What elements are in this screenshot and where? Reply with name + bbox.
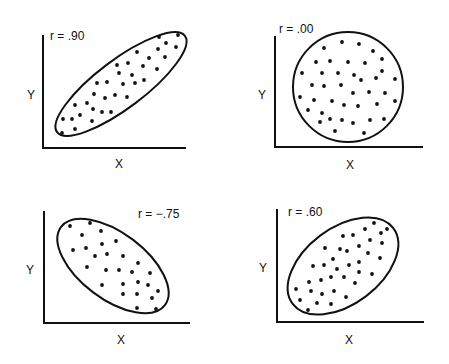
data-point: [340, 40, 344, 44]
data-point: [338, 247, 342, 251]
data-point: [383, 91, 387, 95]
y-axis-label: Y: [258, 88, 266, 102]
data-point: [371, 49, 375, 53]
correlation-label: r = .60: [288, 205, 323, 219]
data-point: [157, 35, 161, 39]
data-point: [363, 61, 367, 65]
data-point: [61, 117, 65, 121]
data-point: [368, 118, 372, 122]
data-point: [314, 60, 318, 64]
data-point: [322, 84, 326, 88]
data-point: [156, 289, 160, 293]
data-point: [332, 289, 336, 293]
data-point: [68, 224, 72, 228]
data-point: [307, 280, 311, 284]
data-point: [352, 73, 356, 77]
data-point: [339, 83, 343, 87]
data-point: [105, 80, 109, 84]
data-point: [135, 292, 139, 296]
data-point: [142, 78, 146, 82]
data-point: [330, 99, 334, 103]
data-point: [335, 267, 339, 271]
data-point: [351, 91, 355, 95]
data-point: [309, 289, 313, 293]
data-point: [331, 257, 335, 261]
data-point: [385, 227, 389, 231]
data-point: [164, 41, 168, 45]
correlation-label: r = −.75: [138, 207, 180, 221]
data-point: [104, 268, 108, 272]
data-point: [382, 117, 386, 121]
data-point: [100, 242, 104, 246]
data-point: [357, 42, 361, 46]
data-point: [155, 67, 159, 71]
scatterplot-canvas: r = .90 Y X r = .00 Y X r = −.75 Y X r =…: [0, 0, 449, 364]
data-point: [73, 103, 77, 107]
scatterplot-panel-1: r = .90 Y X: [27, 17, 199, 171]
boundary-circle: [293, 32, 403, 142]
data-point: [344, 295, 348, 299]
data-point: [114, 239, 118, 243]
data-point: [133, 81, 137, 85]
correlation-scatterplot-figure: r = .90 Y X r = .00 Y X r = −.75 Y X r =…: [0, 0, 449, 364]
data-point: [322, 263, 326, 267]
x-axis-label: X: [117, 333, 125, 347]
data-point: [357, 244, 361, 248]
data-point: [328, 117, 332, 121]
data-point: [357, 260, 361, 264]
data-point: [379, 231, 383, 235]
data-point: [109, 110, 113, 114]
data-point: [380, 57, 384, 61]
data-point: [363, 227, 367, 231]
data-point: [125, 95, 129, 99]
correlation-label: r = .00: [279, 22, 314, 36]
data-point: [318, 120, 322, 124]
data-point: [156, 47, 160, 51]
data-point: [60, 131, 64, 135]
y-axis-label: Y: [27, 88, 35, 102]
data-point: [315, 301, 319, 305]
data-point: [73, 127, 77, 131]
data-point: [298, 95, 302, 99]
data-point: [92, 92, 96, 96]
data-point: [367, 90, 371, 94]
data-point: [342, 103, 346, 107]
data-point: [378, 256, 382, 260]
data-point: [322, 46, 326, 50]
data-point: [320, 71, 324, 75]
data-point: [357, 270, 361, 274]
data-point: [359, 78, 363, 82]
data-point: [312, 98, 316, 102]
data-point: [323, 246, 327, 250]
data-point: [117, 71, 121, 75]
data-point: [121, 292, 125, 296]
data-point: [353, 281, 357, 285]
data-point: [100, 110, 104, 114]
data-point: [115, 63, 119, 67]
data-point: [351, 121, 355, 125]
data-point: [380, 69, 384, 73]
data-point: [346, 60, 350, 64]
data-point: [347, 263, 351, 267]
data-point: [362, 131, 366, 135]
data-point: [372, 221, 376, 225]
data-point: [393, 99, 397, 103]
correlation-label: r = .90: [50, 29, 85, 43]
data-point: [150, 296, 154, 300]
data-point: [393, 77, 397, 81]
data-point: [78, 113, 82, 117]
data-point: [342, 275, 346, 279]
data-point: [121, 282, 125, 286]
data-point: [368, 238, 372, 242]
x-axis-label: X: [115, 157, 123, 171]
data-point: [84, 246, 88, 250]
data-point: [374, 76, 378, 80]
data-point: [90, 119, 94, 123]
data-point: [341, 234, 345, 238]
data-point: [147, 56, 151, 60]
data-point: [121, 82, 125, 86]
data-point: [93, 254, 97, 258]
data-point: [380, 241, 384, 245]
scatterplot-panel-2: r = .00 Y X: [258, 22, 423, 172]
data-point: [105, 252, 109, 256]
